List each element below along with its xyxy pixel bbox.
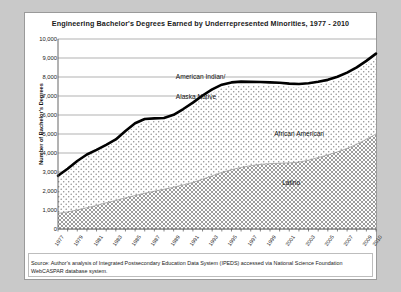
series-label-african-american: African American xyxy=(274,130,324,137)
series-label-american-indian: American Indian/ xyxy=(176,73,225,80)
series-label-latino: Latino xyxy=(282,179,300,186)
chart-figure: Engineering Bachelor's Degrees Earned by… xyxy=(24,12,377,280)
source-note: Source: Author's analysis of Integrated … xyxy=(31,259,372,275)
plot-area-wrapper: Number of Bachelor's Degrees 10,0009,000… xyxy=(25,13,378,281)
series-label-alaska-native: Alaska Native xyxy=(176,93,216,100)
